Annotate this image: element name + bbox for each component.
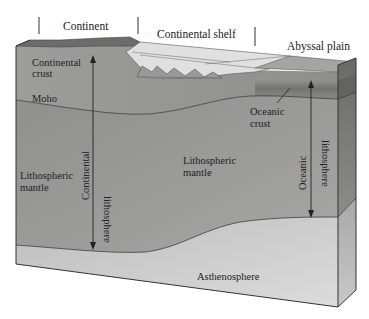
label-lithospheric-mantle-center-2: mantle — [183, 167, 212, 178]
continent-surface — [16, 37, 140, 47]
label-continental-lithosphere-2: lithosphere — [102, 196, 113, 243]
label-continental-shelf: Continental shelf — [157, 28, 236, 40]
label-abyssal-plain: Abyssal plain — [287, 40, 350, 53]
label-oceanic-crust-2: crust — [250, 118, 270, 129]
label-lithospheric-mantle-left-2: mantle — [20, 182, 49, 193]
label-continental-crust-1: Continental — [32, 57, 81, 68]
label-continent: Continent — [63, 20, 109, 32]
label-lithospheric-mantle-center-1: Lithospheric — [183, 155, 236, 166]
label-continental-lithosphere-1: Continental — [80, 151, 91, 200]
label-lithospheric-mantle-left-1: Lithospheric — [20, 170, 73, 181]
label-moho: Moho — [32, 93, 57, 104]
label-oceanic-lithosphere-1: Oceanic — [297, 155, 308, 190]
label-oceanic-crust-1: Oceanic — [250, 106, 285, 117]
label-asthenosphere: Asthenosphere — [197, 271, 260, 282]
label-oceanic-lithosphere-2: lithosphere — [320, 140, 331, 187]
lithosphere-block-diagram: Continent Continental shelf Abyssal plai… — [0, 0, 369, 319]
label-continental-crust-2: crust — [32, 68, 52, 79]
